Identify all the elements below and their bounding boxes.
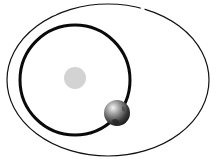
outer-orbit: [7, 4, 209, 156]
planet: [104, 100, 130, 126]
central-body: [64, 67, 86, 89]
orbit-diagram: [0, 0, 216, 160]
